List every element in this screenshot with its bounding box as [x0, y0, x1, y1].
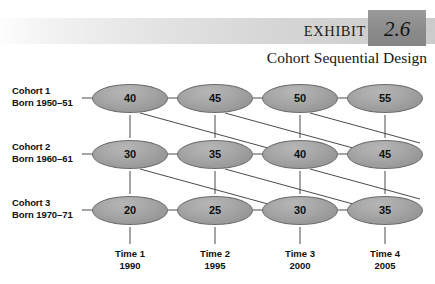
exhibit-number: 2.6: [368, 10, 426, 46]
time-label-1: Time 1 1990: [92, 248, 168, 271]
node-cohort3-time4: 35: [347, 196, 423, 225]
cohort-label-3-line2: Born 1970–71: [12, 209, 73, 221]
node-value: 30: [262, 196, 338, 225]
time-label-4-line1: Time 4: [347, 248, 423, 260]
time-label-3-line1: Time 3: [262, 248, 338, 260]
time-label-2: Time 2 1995: [177, 248, 253, 271]
cohort-label-1-line2: Born 1950–51: [12, 97, 73, 109]
node-value: 30: [92, 140, 168, 169]
node-cohort2-time4: 45: [347, 140, 423, 169]
cohort-label-2-line1: Cohort 2: [12, 141, 73, 153]
time-label-4: Time 4 2005: [347, 248, 423, 271]
node-value: 20: [92, 196, 168, 225]
node-cohort2-time1: 30: [92, 140, 168, 169]
time-label-2-line2: 1995: [177, 260, 253, 272]
node-value: 50: [262, 84, 338, 113]
node-cohort1-time1: 40: [92, 84, 168, 113]
time-label-1-line1: Time 1: [92, 248, 168, 260]
cohort-label-2: Cohort 2 Born 1960–61: [12, 141, 73, 164]
node-cohort3-time1: 20: [92, 196, 168, 225]
exhibit-label: EXHIBIT: [296, 22, 366, 40]
node-value: 45: [177, 84, 253, 113]
cohort-label-3-line1: Cohort 3: [12, 197, 73, 209]
node-value: 25: [177, 196, 253, 225]
node-value: 40: [262, 140, 338, 169]
time-label-1-line2: 1990: [92, 260, 168, 272]
node-value: 35: [177, 140, 253, 169]
node-cohort3-time2: 25: [177, 196, 253, 225]
node-cohort2-time2: 35: [177, 140, 253, 169]
cohort-label-2-line2: Born 1960–61: [12, 153, 73, 165]
node-value: 40: [92, 84, 168, 113]
node-cohort1-time4: 55: [347, 84, 423, 113]
node-cohort1-time3: 50: [262, 84, 338, 113]
node-cohort1-time2: 45: [177, 84, 253, 113]
cohort-label-1-line1: Cohort 1: [12, 85, 73, 97]
time-label-3-line2: 2000: [262, 260, 338, 272]
exhibit-page: EXHIBIT 2.6 Cohort Sequential Design: [0, 0, 435, 284]
cohort-sequential-diagram: Cohort 1 Born 1950–51 Cohort 2 Born 1960…: [0, 72, 435, 284]
node-value: 55: [347, 84, 423, 113]
exhibit-subtitle: Cohort Sequential Design: [180, 49, 427, 67]
cohort-label-3: Cohort 3 Born 1970–71: [12, 197, 73, 220]
time-label-2-line1: Time 2: [177, 248, 253, 260]
node-cohort3-time3: 30: [262, 196, 338, 225]
time-label-4-line2: 2005: [347, 260, 423, 272]
node-value: 45: [347, 140, 423, 169]
time-label-3: Time 3 2000: [262, 248, 338, 271]
node-cohort2-time3: 40: [262, 140, 338, 169]
exhibit-number-box: 2.6: [368, 10, 426, 46]
node-value: 35: [347, 196, 423, 225]
cohort-label-1: Cohort 1 Born 1950–51: [12, 85, 73, 108]
